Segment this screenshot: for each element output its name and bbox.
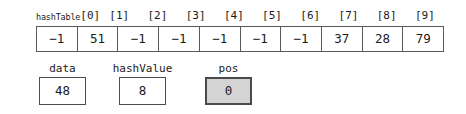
- array-index-label-9: [9]: [406, 8, 444, 24]
- hash-table-cell-4: −1: [200, 27, 241, 51]
- variable-hashvalue: hashValue 8: [119, 62, 166, 107]
- array-index-label-8: [8]: [368, 8, 406, 24]
- array-index-label-1: [1]: [100, 8, 138, 24]
- array-index-text-0: [0]: [80, 8, 100, 24]
- hash-table-cell-1: 51: [78, 27, 119, 51]
- hash-table-cell-5: −1: [241, 27, 282, 51]
- hash-table-cell-3: −1: [159, 27, 200, 51]
- variable-data: data 48: [39, 62, 86, 107]
- hash-table-cell-2: −1: [118, 27, 159, 51]
- variable-pos-label: pos: [219, 62, 239, 76]
- variable-data-label: data: [49, 62, 76, 76]
- hash-table-diagram: hashTable[0] [1] [2] [3] [4] [5] [6] [7]…: [0, 0, 466, 114]
- variable-pos-value-box: 0: [205, 77, 252, 105]
- array-index-label-3: [3]: [177, 8, 215, 24]
- variable-pos: pos 0: [205, 62, 252, 107]
- array-index-label-5: [5]: [253, 8, 291, 24]
- hash-table-array: −1 51 −1 −1 −1 −1 −1 37 28 79: [36, 26, 444, 52]
- hash-table-cell-7: 37: [322, 27, 363, 51]
- array-index-label-4: [4]: [215, 8, 253, 24]
- hash-table-cell-0: −1: [37, 27, 78, 51]
- array-name-label: hashTable: [36, 9, 80, 25]
- variable-data-value-box: 48: [39, 77, 86, 105]
- array-index-label-row: hashTable[0] [1] [2] [3] [4] [5] [6] [7]…: [36, 8, 444, 24]
- array-index-label-0: hashTable[0]: [36, 8, 100, 24]
- array-index-label-6: [6]: [291, 8, 329, 24]
- variable-hashvalue-value-box: 8: [119, 77, 166, 105]
- hash-table-cell-8: 28: [363, 27, 404, 51]
- array-index-label-2: [2]: [138, 8, 176, 24]
- variable-hashvalue-label: hashValue: [113, 62, 173, 76]
- array-index-label-7: [7]: [329, 8, 367, 24]
- hash-table-cell-9: 79: [403, 27, 443, 51]
- hash-table-cell-6: −1: [281, 27, 322, 51]
